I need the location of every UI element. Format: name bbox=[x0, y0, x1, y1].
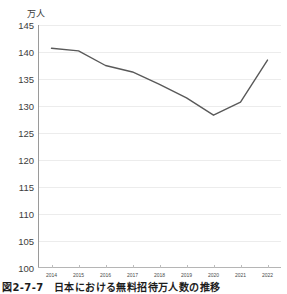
plot-area: 100105110115120125130135140145 201420152… bbox=[38, 25, 281, 268]
x-axis-tick-label: 2016 bbox=[100, 272, 111, 278]
y-axis-tick-label: 120 bbox=[18, 155, 34, 166]
x-axis-tick-label: 2020 bbox=[208, 272, 219, 278]
x-axis-tick-label: 2018 bbox=[154, 272, 165, 278]
series-line-population bbox=[52, 48, 268, 115]
y-axis-tick-label: 135 bbox=[18, 74, 34, 85]
x-axis-tick-label: 2017 bbox=[127, 272, 138, 278]
x-axis-tick-label: 2015 bbox=[73, 272, 84, 278]
y-axis-tick-label: 130 bbox=[18, 101, 34, 112]
y-axis-tick-label: 125 bbox=[18, 128, 34, 139]
y-axis-tick-label: 100 bbox=[18, 263, 34, 274]
x-axis-tick-label: 2014 bbox=[46, 272, 57, 278]
y-axis-tick-label: 105 bbox=[18, 236, 34, 247]
y-axis-tick-label: 110 bbox=[19, 209, 34, 220]
y-axis-tick-label: 140 bbox=[18, 47, 34, 58]
x-axis-tick-label: 2019 bbox=[181, 272, 192, 278]
y-axis-tick-label: 115 bbox=[19, 182, 34, 193]
y-axis-tick-label: 145 bbox=[18, 20, 34, 31]
series-line-group bbox=[38, 25, 281, 268]
y-axis-unit-label: 万人 bbox=[27, 7, 45, 20]
figure-caption: 図2-7-7 日本における無料招待万人数の推移 bbox=[2, 279, 220, 294]
x-axis-tick-label: 2022 bbox=[262, 272, 273, 278]
x-axis-tick-label: 2021 bbox=[235, 272, 246, 278]
